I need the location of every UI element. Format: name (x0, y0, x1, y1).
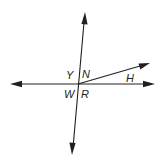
label-h: H (126, 72, 134, 84)
angle-diagram: Y N W R H (0, 0, 160, 161)
arrowhead-down-icon (69, 143, 75, 155)
label-y: Y (66, 69, 74, 81)
label-w: W (64, 88, 76, 100)
arrowhead-up-icon (81, 12, 87, 25)
arrowhead-ray-icon (139, 63, 151, 70)
arrowhead-left-icon (10, 81, 22, 87)
label-r: R (81, 88, 89, 100)
label-n: N (82, 68, 90, 80)
arrowhead-right-icon (143, 81, 155, 87)
